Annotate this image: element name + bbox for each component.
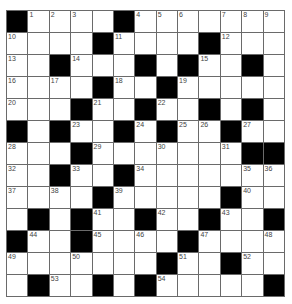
crossword-cell[interactable] — [178, 165, 199, 187]
crossword-cell[interactable]: 52 — [242, 253, 263, 275]
crossword-cell[interactable]: 22 — [157, 99, 178, 121]
crossword-cell[interactable] — [114, 209, 135, 231]
crossword-cell[interactable]: 16 — [7, 77, 28, 99]
crossword-cell[interactable] — [199, 253, 220, 275]
crossword-cell[interactable] — [221, 275, 242, 297]
crossword-cell[interactable]: 18 — [114, 77, 135, 99]
crossword-cell[interactable]: 21 — [93, 99, 114, 121]
crossword-cell[interactable]: 7 — [221, 11, 242, 33]
crossword-cell[interactable]: 12 — [221, 33, 242, 55]
crossword-cell[interactable]: 2 — [50, 11, 71, 33]
crossword-cell[interactable] — [221, 99, 242, 121]
crossword-cell[interactable]: 8 — [242, 11, 263, 33]
crossword-cell[interactable]: 46 — [135, 231, 156, 253]
crossword-cell[interactable]: 34 — [135, 165, 156, 187]
crossword-cell[interactable] — [135, 253, 156, 275]
crossword-cell[interactable]: 47 — [199, 231, 220, 253]
crossword-cell[interactable] — [50, 209, 71, 231]
crossword-cell[interactable]: 6 — [178, 11, 199, 33]
crossword-cell[interactable] — [199, 165, 220, 187]
crossword-cell[interactable] — [221, 165, 242, 187]
crossword-cell[interactable] — [199, 275, 220, 297]
crossword-cell[interactable]: 44 — [28, 231, 49, 253]
crossword-cell[interactable]: 25 — [178, 121, 199, 143]
crossword-cell[interactable]: 3 — [71, 11, 92, 33]
crossword-cell[interactable]: 32 — [7, 165, 28, 187]
crossword-cell[interactable] — [93, 11, 114, 33]
crossword-cell[interactable] — [71, 275, 92, 297]
crossword-cell[interactable] — [28, 99, 49, 121]
crossword-cell[interactable]: 37 — [7, 187, 28, 209]
crossword-cell[interactable] — [242, 231, 263, 253]
crossword-cell[interactable] — [178, 143, 199, 165]
crossword-cell[interactable] — [264, 55, 285, 77]
crossword-cell[interactable] — [135, 187, 156, 209]
crossword-cell[interactable] — [157, 231, 178, 253]
crossword-cell[interactable]: 23 — [71, 121, 92, 143]
crossword-cell[interactable] — [264, 33, 285, 55]
crossword-cell[interactable] — [178, 209, 199, 231]
crossword-cell[interactable]: 54 — [157, 275, 178, 297]
crossword-cell[interactable] — [221, 55, 242, 77]
crossword-cell[interactable] — [28, 77, 49, 99]
crossword-cell[interactable]: 14 — [71, 55, 92, 77]
crossword-cell[interactable]: 45 — [93, 231, 114, 253]
crossword-cell[interactable] — [242, 33, 263, 55]
crossword-cell[interactable] — [135, 143, 156, 165]
crossword-cell[interactable] — [135, 33, 156, 55]
crossword-cell[interactable]: 49 — [7, 253, 28, 275]
crossword-cell[interactable]: 10 — [7, 33, 28, 55]
crossword-cell[interactable] — [28, 55, 49, 77]
crossword-cell[interactable] — [93, 165, 114, 187]
crossword-cell[interactable] — [157, 55, 178, 77]
crossword-cell[interactable] — [7, 209, 28, 231]
crossword-cell[interactable]: 41 — [93, 209, 114, 231]
crossword-cell[interactable] — [157, 187, 178, 209]
crossword-cell[interactable] — [71, 33, 92, 55]
crossword-cell[interactable] — [242, 275, 263, 297]
crossword-cell[interactable]: 4 — [135, 11, 156, 33]
crossword-cell[interactable]: 53 — [50, 275, 71, 297]
crossword-cell[interactable]: 48 — [264, 231, 285, 253]
crossword-cell[interactable]: 29 — [93, 143, 114, 165]
crossword-cell[interactable] — [50, 99, 71, 121]
crossword-cell[interactable]: 17 — [50, 77, 71, 99]
crossword-cell[interactable] — [178, 99, 199, 121]
crossword-cell[interactable] — [157, 33, 178, 55]
crossword-cell[interactable] — [264, 99, 285, 121]
crossword-cell[interactable] — [242, 209, 263, 231]
crossword-cell[interactable]: 33 — [71, 165, 92, 187]
crossword-cell[interactable] — [221, 231, 242, 253]
crossword-cell[interactable] — [28, 165, 49, 187]
crossword-cell[interactable]: 31 — [221, 143, 242, 165]
crossword-cell[interactable] — [264, 121, 285, 143]
crossword-cell[interactable] — [28, 253, 49, 275]
crossword-cell[interactable]: 5 — [157, 11, 178, 33]
crossword-cell[interactable] — [71, 187, 92, 209]
crossword-cell[interactable]: 39 — [114, 187, 135, 209]
crossword-cell[interactable] — [28, 143, 49, 165]
crossword-cell[interactable]: 51 — [178, 253, 199, 275]
crossword-cell[interactable] — [114, 99, 135, 121]
crossword-cell[interactable] — [50, 33, 71, 55]
crossword-cell[interactable]: 13 — [7, 55, 28, 77]
crossword-cell[interactable] — [135, 77, 156, 99]
crossword-cell[interactable]: 50 — [71, 253, 92, 275]
crossword-cell[interactable]: 27 — [242, 121, 263, 143]
crossword-cell[interactable] — [93, 121, 114, 143]
crossword-cell[interactable]: 20 — [7, 99, 28, 121]
crossword-cell[interactable] — [93, 253, 114, 275]
crossword-cell[interactable] — [221, 77, 242, 99]
crossword-cell[interactable]: 30 — [157, 143, 178, 165]
crossword-cell[interactable]: 15 — [199, 55, 220, 77]
crossword-cell[interactable]: 19 — [178, 77, 199, 99]
crossword-cell[interactable]: 43 — [221, 209, 242, 231]
crossword-cell[interactable]: 28 — [7, 143, 28, 165]
crossword-cell[interactable] — [178, 187, 199, 209]
crossword-cell[interactable] — [178, 33, 199, 55]
crossword-cell[interactable]: 9 — [264, 11, 285, 33]
crossword-cell[interactable] — [28, 33, 49, 55]
crossword-cell[interactable] — [71, 77, 92, 99]
crossword-cell[interactable] — [178, 275, 199, 297]
crossword-cell[interactable] — [199, 77, 220, 99]
